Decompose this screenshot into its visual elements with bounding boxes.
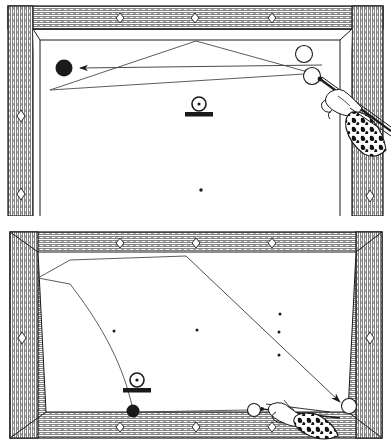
bottom-rail-frame (10, 232, 382, 438)
top-table-panel (0, 0, 391, 216)
bottom-table-panel (0, 228, 391, 442)
figure-root (0, 0, 391, 442)
table-spot-dot-right-1 (279, 313, 282, 316)
table-spot-dot-left (113, 330, 116, 333)
table-spot-dot-right-3 (278, 354, 281, 357)
table-spot-dot-right-2 (278, 331, 281, 334)
top-table-svg (0, 0, 391, 216)
cue-tip (260, 407, 264, 411)
table-spot-dot-center (196, 329, 199, 332)
object-ball-black (127, 405, 140, 418)
target-ball-white (342, 399, 357, 414)
bottom-table-svg (0, 228, 391, 442)
cue-ball-white (248, 404, 261, 417)
table-spot-dot (199, 188, 202, 191)
object-ball-black (56, 60, 73, 77)
cue-tip (318, 77, 323, 82)
object-ball-white-upper (296, 46, 313, 63)
top-rail-frame (8, 6, 383, 216)
cue-ball-white (304, 68, 321, 85)
